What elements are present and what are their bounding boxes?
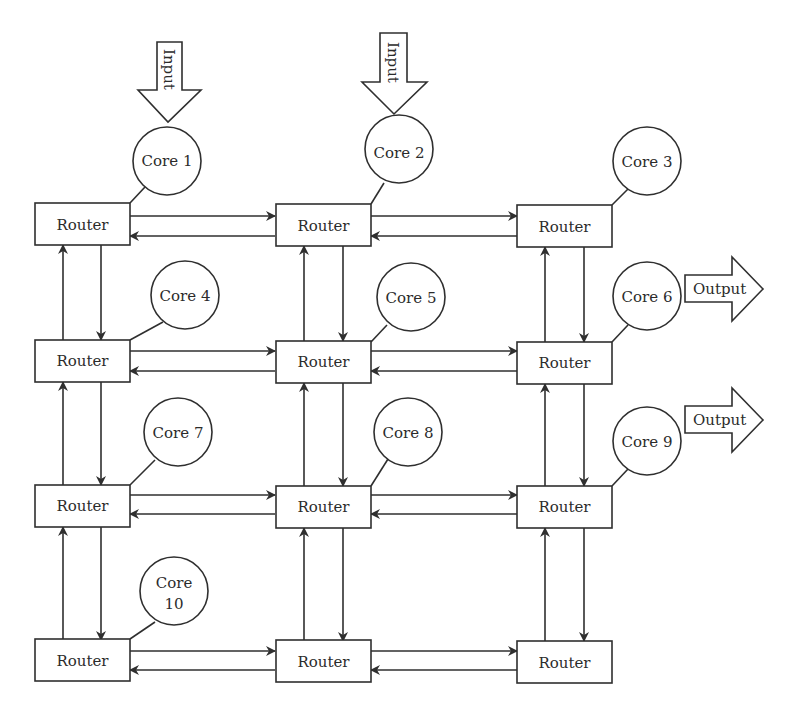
output-label: Output [693, 280, 746, 298]
router-label: Router [538, 654, 591, 672]
output-label: Output [693, 411, 746, 429]
core-9: Core 9 [613, 407, 681, 475]
output-arrow-core-9: Output [685, 388, 763, 452]
input-arrow-core-1: Input [138, 42, 201, 122]
router-label: Router [297, 653, 350, 671]
router-r4c3: Router [517, 641, 612, 683]
router-label: Router [56, 652, 109, 670]
core-label: Core 4 [160, 287, 211, 305]
noc-mesh-diagram: Input Input Output Output [0, 0, 798, 717]
core-label: Core 1 [142, 152, 193, 170]
router-r1c2: Router [276, 204, 371, 246]
router-r2c3: Router [517, 342, 612, 384]
router-label: Router [297, 498, 350, 516]
output-arrow-core-6: Output [685, 257, 763, 321]
input-arrow-core-2: Input [362, 33, 427, 114]
router-label: Router [56, 497, 109, 515]
router-r2c1: Router [35, 340, 130, 382]
core-6: Core 6 [613, 262, 681, 330]
core-label-line2: 10 [164, 595, 183, 613]
router-label: Router [297, 353, 350, 371]
core-3: Core 3 [613, 127, 681, 195]
router-label: Router [297, 217, 350, 235]
core-5: Core 5 [377, 263, 445, 331]
router-r4c1: Router [35, 639, 130, 681]
router-label: Router [538, 498, 591, 516]
core-label: Core 7 [153, 424, 204, 442]
router-r3c1: Router [35, 485, 130, 527]
core-8: Core 8 [374, 398, 442, 466]
core-1: Core 1 [133, 127, 201, 195]
router-label: Router [538, 218, 591, 236]
router-label: Router [56, 216, 109, 234]
core-10: Core 10 [140, 557, 208, 625]
core-2: Core 2 [365, 115, 433, 183]
core-label: Core 2 [374, 144, 425, 162]
router-r3c3: Router [517, 486, 612, 528]
core-label-line1: Core [156, 574, 193, 592]
router-r4c2: Router [276, 640, 371, 682]
router-label: Router [56, 352, 109, 370]
router-r2c2: Router [276, 341, 371, 383]
core-label: Core 3 [622, 153, 673, 171]
router-r3c2: Router [276, 486, 371, 528]
core-label: Core 5 [386, 289, 437, 307]
router-r1c3: Router [517, 205, 612, 247]
router-label: Router [538, 354, 591, 372]
core-4: Core 4 [151, 261, 219, 329]
core-label: Core 9 [622, 433, 673, 451]
routers: Router Router Router Router Router Route… [35, 203, 612, 683]
core-label: Core 6 [622, 288, 673, 306]
input-label: Input [160, 49, 178, 90]
input-label: Input [384, 42, 402, 83]
router-r1c1: Router [35, 203, 130, 245]
core-7: Core 7 [144, 398, 212, 466]
core-label: Core 8 [383, 424, 434, 442]
